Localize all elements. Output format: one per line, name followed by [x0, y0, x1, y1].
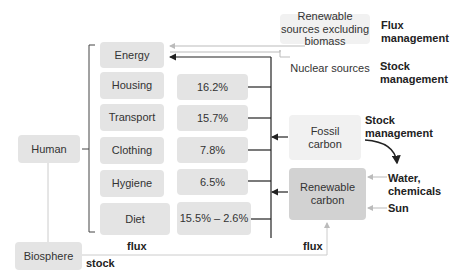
need-label: Clothing: [112, 144, 152, 157]
need-energy: Energy: [100, 42, 164, 68]
renewable-carbon-label: Renewable carbon: [298, 181, 358, 206]
renewable-carbon-box: Renewable carbon: [289, 168, 366, 220]
share-value: 6.5%: [200, 176, 225, 189]
value-diet: 15.5% – 2.6%: [177, 202, 251, 235]
renewable-sources-box: Renewable sources excluding biomass: [280, 14, 370, 44]
need-transport: Transport: [100, 104, 164, 131]
need-label: Housing: [112, 79, 152, 92]
nuclear-sources-box: Nuclear sources: [290, 58, 370, 78]
need-label: Hygiene: [112, 177, 152, 190]
biosphere-box: Biosphere: [15, 242, 82, 270]
value-hygiene: 6.5%: [177, 169, 248, 195]
need-clothing: Clothing: [100, 137, 164, 164]
flux-management-label: Flux management: [381, 19, 451, 44]
share-value: 7.8%: [200, 144, 225, 157]
renewable-sources-label: Renewable sources excluding biomass: [280, 10, 370, 48]
need-label: Transport: [109, 111, 156, 124]
human-box: Human: [18, 135, 80, 163]
biosphere-label: Biosphere: [24, 250, 74, 263]
nuclear-sources-label: Nuclear sources: [290, 62, 369, 75]
share-value: 15.5% – 2.6%: [180, 212, 249, 225]
value-transport: 15.7%: [177, 105, 248, 131]
stock-management-fossil-label: Stock management: [365, 114, 440, 139]
flux-left-label: flux: [127, 240, 147, 253]
stock-label: stock: [86, 257, 115, 270]
share-value: 15.7%: [197, 112, 228, 125]
flux-right-label: flux: [303, 240, 323, 253]
fossil-carbon-label: Fossil carbon: [305, 125, 345, 150]
value-housing: 16.2%: [177, 74, 248, 100]
need-label: Energy: [115, 49, 150, 62]
need-label: Diet: [125, 213, 145, 226]
stock-management-nuclear-label: Stock management: [380, 60, 455, 85]
need-hygiene: Hygiene: [100, 170, 164, 197]
need-diet: Diet: [100, 203, 170, 235]
human-label: Human: [31, 143, 66, 156]
water-chemicals-label: Water, chemicals: [388, 172, 448, 197]
need-housing: Housing: [100, 72, 164, 99]
sun-label: Sun: [388, 202, 409, 215]
fossil-carbon-box: Fossil carbon: [289, 115, 361, 160]
value-clothing: 7.8%: [177, 137, 248, 163]
share-value: 16.2%: [197, 81, 228, 94]
